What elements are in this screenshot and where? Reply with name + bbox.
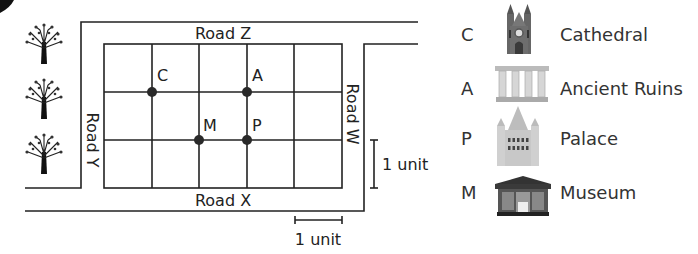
point-p (242, 135, 252, 145)
corner-mark (0, 0, 14, 13)
legend-name: Ancient Ruins (560, 78, 683, 99)
legend-letter: M (461, 182, 477, 203)
point-c-label: C (157, 66, 168, 85)
ancient-ruins-icon (495, 64, 551, 104)
legend-item-museum: M Museum (455, 174, 698, 230)
horizontal-scale-label: 1 unit (295, 230, 341, 249)
tree-icon (25, 23, 62, 64)
legend-name: Palace (560, 128, 618, 149)
legend-name: Museum (560, 182, 636, 203)
palace-icon (495, 106, 541, 168)
legend-letter: C (461, 24, 474, 45)
road-w-label: Road W (343, 83, 362, 144)
point-a-label: A (252, 66, 263, 85)
point-c (147, 87, 157, 97)
vertical-scale-label: 1 unit (382, 155, 428, 174)
point-p-label: P (252, 116, 262, 135)
museum-icon (495, 176, 551, 218)
road-x-label: Road X (195, 191, 251, 210)
road-y-label: Road Y (83, 112, 102, 167)
tree-icon (25, 133, 62, 174)
legend-name: Cathedral (560, 24, 648, 45)
vertical-scale-bar (370, 140, 378, 188)
legend: C Cathedral A Ancient Ruins P (455, 0, 698, 254)
tree-icon (25, 78, 62, 119)
grid-border (104, 44, 342, 188)
point-m-label: M (203, 116, 217, 135)
legend-letter: P (461, 128, 472, 149)
legend-letter: A (461, 78, 473, 99)
cathedral-icon (495, 4, 541, 56)
point-a (242, 87, 252, 97)
legend-item-palace: P Palace (455, 106, 698, 162)
legend-item-cathedral: C Cathedral (455, 4, 698, 60)
road-z-label: Road Z (195, 24, 251, 43)
point-m (194, 135, 204, 145)
horizontal-scale-bar (295, 216, 342, 224)
grid (104, 44, 342, 188)
